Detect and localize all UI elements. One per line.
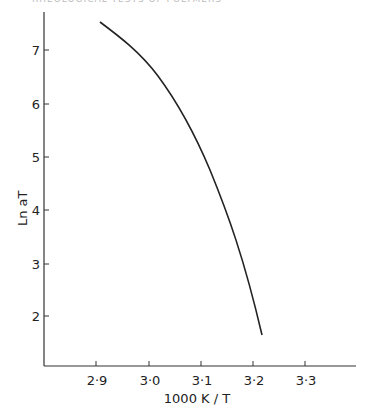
x-tick-3.3: 3·3: [296, 373, 317, 388]
y-tick-5: 5: [32, 150, 40, 165]
y-tick-4: 4: [32, 203, 40, 218]
y-tick-3: 3: [32, 257, 40, 272]
chart: 7 6 5 4 3 2 Ln aT 2·9 3·0 3·1 3·2 3·3 10…: [0, 0, 371, 414]
y-tick-7: 7: [32, 43, 40, 58]
y-tick-6: 6: [32, 97, 40, 112]
y-tick-2: 2: [32, 309, 40, 324]
x-axis: 2·9 3·0 3·1 3·2 3·3 1000 K / T: [44, 361, 356, 406]
x-tick-2.9: 2·9: [87, 373, 108, 388]
x-tick-3.2: 3·2: [244, 373, 265, 388]
x-axis-label: 1000 K / T: [164, 391, 230, 406]
x-tick-3.0: 3·0: [140, 373, 161, 388]
x-tick-3.1: 3·1: [192, 373, 213, 388]
y-axis: 7 6 5 4 3 2 Ln aT: [15, 12, 49, 366]
y-axis-label: Ln aT: [15, 190, 30, 226]
data-curve: [100, 22, 262, 335]
